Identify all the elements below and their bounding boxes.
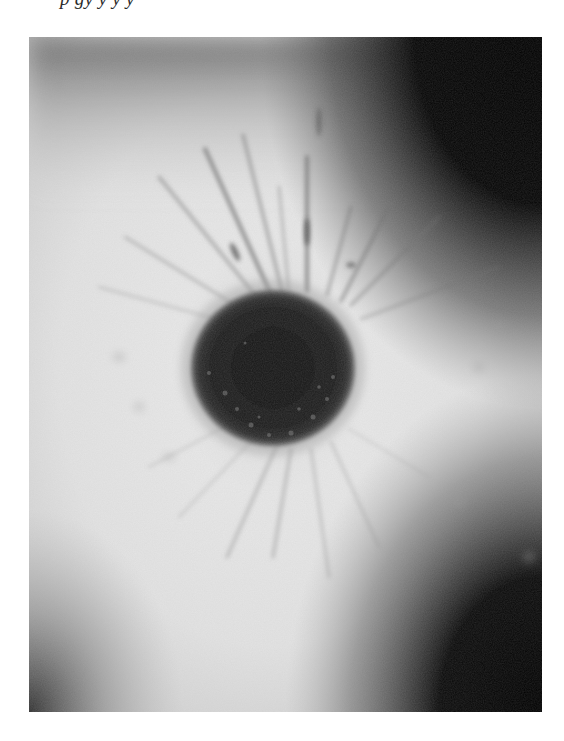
iris-image <box>29 37 542 712</box>
clipped-caption-text: p gy y y y <box>60 0 540 8</box>
iris-photograph <box>29 37 542 712</box>
photo-grain <box>29 37 542 712</box>
